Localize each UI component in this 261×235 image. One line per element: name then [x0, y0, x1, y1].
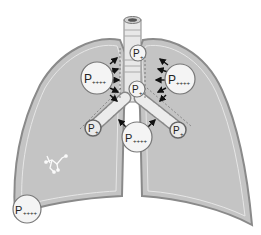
right-bronchus-end-bubble: P + — [170, 122, 186, 138]
label-base: P — [15, 204, 22, 216]
label-sub: + — [139, 90, 143, 96]
lung-pressure-diagram: P + P + P ++++ P ++++ P + P + P ++++ P +… — [0, 0, 261, 235]
right-lung-upper-bubble: P ++++ — [165, 64, 195, 94]
trachea-upper-bubble: P + — [130, 45, 146, 61]
label-sub: + — [95, 129, 99, 135]
label-base: P — [168, 73, 176, 87]
left-bronchus-end-bubble: P + — [85, 120, 101, 136]
label-base: P — [133, 48, 140, 59]
left-lung-upper-bubble: P ++++ — [81, 62, 113, 94]
label-sub: ++++ — [133, 138, 148, 144]
label-sub: + — [140, 54, 144, 60]
label-base: P — [88, 123, 95, 134]
left-lung-base-bubble: P ++++ — [13, 195, 41, 223]
label-sub: ++++ — [176, 80, 191, 86]
label-base: P — [132, 84, 139, 95]
label-sub: + — [180, 131, 184, 137]
label-base: P — [84, 72, 92, 86]
label-base: P — [125, 132, 132, 144]
label-base: P — [173, 125, 180, 136]
label-sub: ++++ — [92, 79, 107, 85]
left-lung — [14, 39, 128, 215]
trachea-lower-bubble: P + — [129, 81, 145, 97]
label-sub: ++++ — [23, 210, 38, 216]
right-lung — [136, 39, 252, 225]
mediastinum-bubble: P ++++ — [122, 122, 152, 152]
